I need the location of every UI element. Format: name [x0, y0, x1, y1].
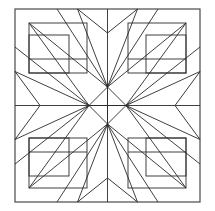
figure-root — [0, 0, 215, 211]
quilt-block-drawing — [0, 0, 215, 211]
